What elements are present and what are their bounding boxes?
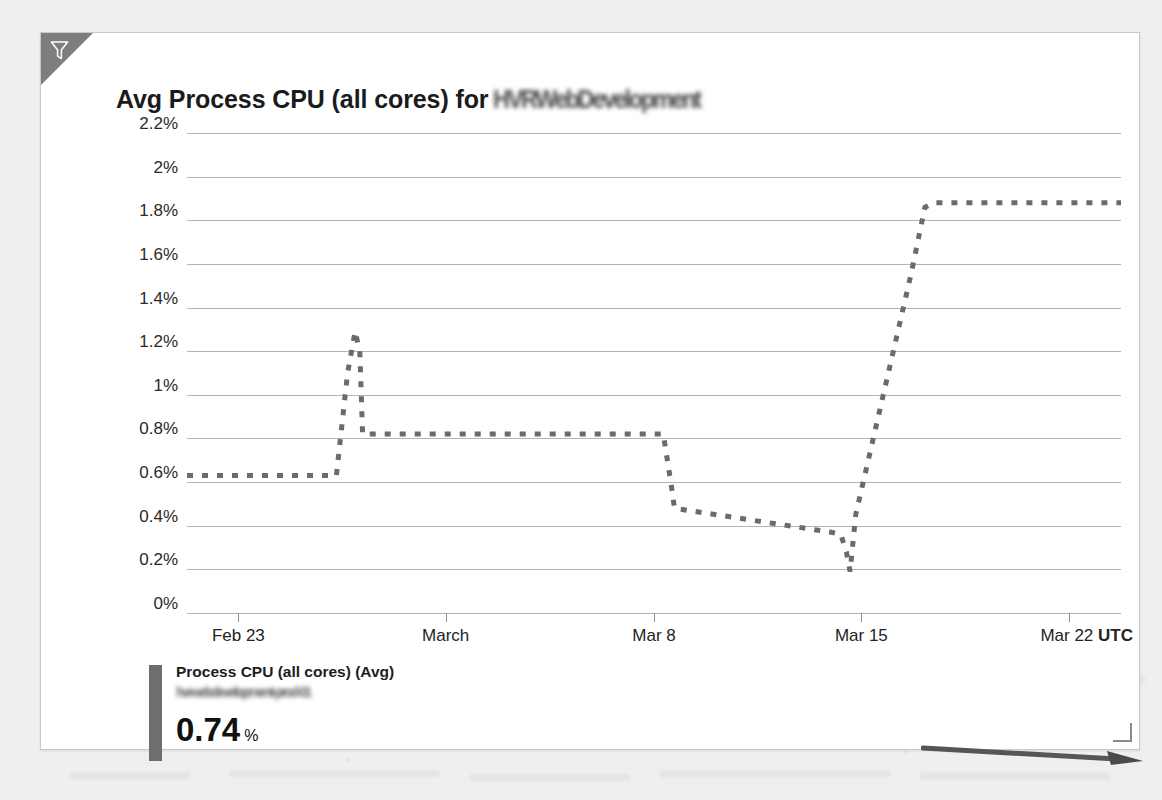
- y-axis-tick-label: 1.8%: [139, 201, 178, 221]
- y-axis-tick-label: 1%: [153, 376, 178, 396]
- x-axis-tick-label: March: [422, 626, 469, 646]
- x-axis-tick-label: Feb 23: [212, 626, 265, 646]
- legend-current-value: 0.74%: [176, 711, 394, 749]
- y-axis-tick-label: 0%: [153, 594, 178, 614]
- x-axis-tick-label: Mar 22 UTC: [1040, 626, 1133, 646]
- legend-value-number: 0.74: [176, 711, 240, 748]
- page-title-redacted: HVRWebDevelopment: [493, 85, 700, 114]
- y-axis-tick-label: 2.2%: [139, 114, 178, 134]
- background-ghost-text: [70, 772, 190, 779]
- right-pointing-arrow-icon: [921, 739, 1143, 773]
- x-axis-tick-label: Mar 15: [835, 626, 888, 646]
- background-ghost-text: [230, 770, 440, 777]
- x-axis-tick: [446, 613, 447, 622]
- chart-plot-area: 0%0.2%0.4%0.6%0.8%1%1.2%1.4%1.6%1.8%2%2.…: [187, 133, 1121, 613]
- resize-handle[interactable]: [1113, 723, 1132, 742]
- x-axis-tick: [861, 613, 862, 622]
- background-ghost-text: [920, 773, 1110, 780]
- background-ghost-text: [660, 770, 890, 777]
- chart-series-line: [187, 133, 1121, 613]
- y-axis-tick-label: 1.2%: [139, 332, 178, 352]
- chart-panel: Avg Process CPU (all cores) forHVRWebDev…: [40, 32, 1140, 750]
- y-axis-tick-label: 0.4%: [139, 507, 178, 527]
- background-ghost-text: [470, 774, 630, 781]
- x-axis-tick: [238, 613, 239, 622]
- y-axis-tick-label: 1.6%: [139, 245, 178, 265]
- x-axis-tick: [654, 613, 655, 622]
- y-axis-tick-label: 0.8%: [139, 419, 178, 439]
- x-axis-tick: [1069, 613, 1070, 622]
- funnel-filter-icon[interactable]: [50, 40, 69, 61]
- x-axis-timezone-label: UTC: [1093, 626, 1133, 645]
- legend-series-label: Process CPU (all cores) (Avg): [176, 663, 394, 681]
- legend-redacted-subtitle: hvrwebdevelopment-prod-01: [176, 684, 383, 701]
- page-title: Avg Process CPU (all cores) forHVRWebDev…: [116, 85, 715, 114]
- legend-color-swatch: [149, 665, 162, 761]
- y-axis-tick-label: 0.2%: [139, 550, 178, 570]
- page-title-prefix: Avg Process CPU (all cores) for: [116, 85, 489, 113]
- y-axis-tick-label: 1.4%: [139, 289, 178, 309]
- chart-legend: Process CPU (all cores) (Avg) hvrwebdeve…: [149, 663, 394, 749]
- x-axis-tick-label: Mar 8: [632, 626, 675, 646]
- series-path: [187, 203, 1121, 572]
- legend-value-unit: %: [244, 727, 258, 744]
- y-axis-tick-label: 0.6%: [139, 463, 178, 483]
- y-axis-tick-label: 2%: [153, 158, 178, 178]
